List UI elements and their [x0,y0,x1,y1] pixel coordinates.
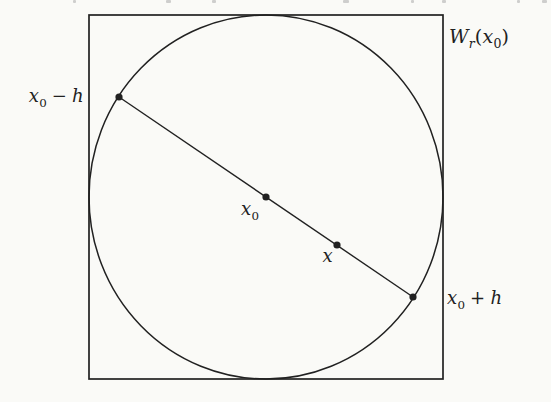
math-operator: − [52,85,67,106]
label-window-wr-x0: Wr(x0) [449,26,509,48]
math-paren: ( [475,25,483,47]
math-operator: + [470,287,485,308]
math-var: x [447,287,457,308]
math-var: x [323,245,333,266]
geometry-diagram [0,0,551,402]
point-dot-x0-plus-h [409,293,416,300]
math-subscript: 0 [494,36,502,51]
math-subscript: 0 [39,96,47,110]
math-var: h [72,85,84,106]
math-var: h [490,287,502,308]
label-x: x [301,246,333,267]
point-dot-x [333,241,340,248]
math-paren: ) [502,25,510,47]
scanned-figure: x0−h Wr(x0) x0 x x0+h [0,0,551,402]
math-var: x [29,85,39,106]
point-dot-x0-minus-h [115,93,122,100]
math-var: x [241,198,251,219]
math-subscript: 0 [251,209,259,223]
math-var: x [483,25,494,47]
point-dot-x0 [262,193,269,200]
math-subscript: 0 [457,298,465,312]
label-x0-plus-h: x0+h [447,288,502,309]
label-x0: x0 [221,199,259,220]
label-x0-minus-h: x0−h [12,86,84,107]
math-func: W [449,25,469,47]
